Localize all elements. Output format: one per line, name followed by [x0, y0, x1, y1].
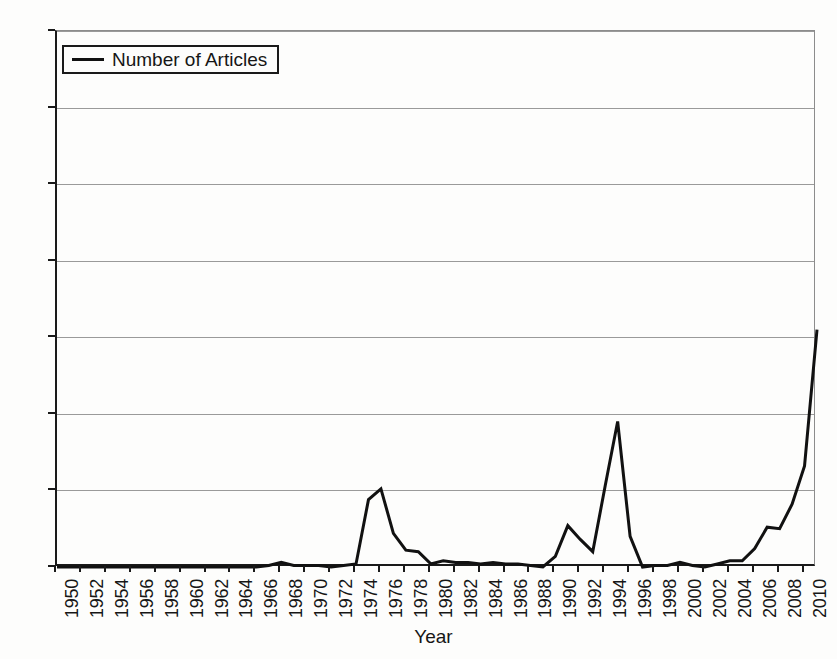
x-tick-label-1968: 1968 [286, 579, 307, 618]
x-tick-label-1966: 1966 [261, 579, 282, 618]
x-tick-label-2000: 2000 [685, 579, 706, 618]
x-tick-mark-1954 [104, 566, 106, 572]
x-tick-mark-2000 [677, 566, 679, 572]
x-tick-label-1962: 1962 [212, 579, 233, 618]
x-tick-label-1990: 1990 [560, 579, 581, 618]
x-tick-mark-1980 [428, 566, 430, 572]
x-axis-title: Year [0, 626, 837, 648]
x-tick-label-1958: 1958 [162, 579, 183, 618]
x-tick-label-1988: 1988 [535, 579, 556, 618]
y-tick-mark-150 [48, 335, 55, 337]
x-tick-mark-1990 [552, 566, 554, 572]
x-tick-mark-1998 [652, 566, 654, 572]
legend-line-swatch-icon [72, 58, 104, 61]
y-tick-mark-350 [48, 29, 55, 31]
x-tick-mark-1950 [54, 566, 56, 572]
x-tick-label-1956: 1956 [137, 579, 158, 618]
x-tick-mark-2010 [802, 566, 804, 572]
legend-label-number-of-articles: Number of Articles [112, 49, 267, 71]
x-tick-mark-1982 [453, 566, 455, 572]
x-tick-mark-1996 [627, 566, 629, 572]
x-tick-label-2008: 2008 [785, 579, 806, 618]
x-tick-label-1950: 1950 [62, 579, 83, 618]
y-tick-mark-50 [48, 488, 55, 490]
x-tick-mark-1978 [403, 566, 405, 572]
x-tick-mark-1992 [577, 566, 579, 572]
x-tick-mark-1988 [527, 566, 529, 572]
x-tick-mark-1986 [503, 566, 505, 572]
x-tick-mark-2004 [727, 566, 729, 572]
x-tick-mark-1968 [278, 566, 280, 572]
x-tick-label-1960: 1960 [187, 579, 208, 618]
x-tick-label-1972: 1972 [336, 579, 357, 618]
x-tick-mark-2006 [752, 566, 754, 572]
x-tick-label-1952: 1952 [87, 579, 108, 618]
x-axis-title-label: Year [414, 626, 452, 648]
chart-page: 050100150200250300350 Year 1950195219541… [0, 0, 837, 659]
x-tick-label-1994: 1994 [610, 579, 631, 618]
x-tick-label-2004: 2004 [735, 579, 756, 618]
x-tick-mark-1972 [328, 566, 330, 572]
x-tick-label-1982: 1982 [461, 579, 482, 618]
x-tick-label-1986: 1986 [511, 579, 532, 618]
x-tick-mark-1974 [353, 566, 355, 572]
y-tick-mark-300 [48, 106, 55, 108]
x-tick-label-1978: 1978 [411, 579, 432, 618]
x-tick-mark-1956 [129, 566, 131, 572]
y-tick-mark-200 [48, 259, 55, 261]
x-tick-mark-1958 [154, 566, 156, 572]
x-tick-label-1998: 1998 [660, 579, 681, 618]
x-tick-label-1976: 1976 [386, 579, 407, 618]
x-tick-label-1992: 1992 [585, 579, 606, 618]
x-tick-mark-1976 [378, 566, 380, 572]
x-tick-label-2006: 2006 [760, 579, 781, 618]
x-tick-label-1980: 1980 [436, 579, 457, 618]
x-tick-mark-1952 [79, 566, 81, 572]
x-tick-label-2002: 2002 [710, 579, 731, 618]
x-tick-mark-1964 [228, 566, 230, 572]
legend-box: Number of Articles [62, 45, 279, 74]
x-tick-label-2010: 2010 [810, 579, 831, 618]
x-tick-label-1984: 1984 [486, 579, 507, 618]
y-tick-mark-100 [48, 412, 55, 414]
x-tick-label-1996: 1996 [635, 579, 656, 618]
x-tick-label-1954: 1954 [112, 579, 133, 618]
y-axis: 050100150200250300350 [0, 0, 837, 659]
x-tick-label-1970: 1970 [311, 579, 332, 618]
x-tick-mark-1994 [602, 566, 604, 572]
x-tick-mark-2008 [777, 566, 779, 572]
x-tick-label-1964: 1964 [236, 579, 257, 618]
x-tick-mark-1970 [303, 566, 305, 572]
x-tick-mark-1962 [204, 566, 206, 572]
x-tick-mark-1960 [179, 566, 181, 572]
x-tick-label-1974: 1974 [361, 579, 382, 618]
x-tick-mark-1966 [253, 566, 255, 572]
x-tick-mark-1984 [478, 566, 480, 572]
y-tick-mark-250 [48, 182, 55, 184]
x-tick-mark-2002 [702, 566, 704, 572]
x-axis: Year 19501952195419561958196019621964196… [0, 566, 837, 659]
